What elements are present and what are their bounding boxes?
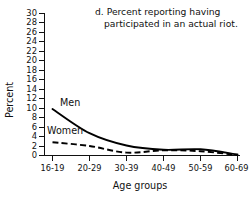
y-tick-label: 26 <box>26 27 37 37</box>
y-tick-label: 16 <box>26 74 37 84</box>
y-tick-label: 14 <box>26 84 37 94</box>
y-axis-label: Percent <box>4 82 15 118</box>
chart-title-line-1: d. Percent reporting having <box>95 6 220 17</box>
x-axis-tick-labels: 16-19 20-29 30-39 40-49 50-59 60-69 <box>41 163 249 173</box>
x-axis-ticks <box>53 156 238 162</box>
x-tick-label: 16-19 <box>41 163 65 173</box>
y-tick-label: 22 <box>26 46 37 56</box>
line-chart: d. Percent reporting having participated… <box>0 0 249 197</box>
series-label-men: Men <box>60 97 80 108</box>
y-tick-label: 6 <box>32 122 37 132</box>
series-label-women: Women <box>47 125 83 136</box>
y-tick-label: 2 <box>32 141 37 151</box>
chart-figure: d. Percent reporting having participated… <box>0 0 249 197</box>
chart-title-line-2: participated in an actual riot. <box>104 18 238 29</box>
y-tick-label: 10 <box>26 103 37 113</box>
x-tick-label: 40-49 <box>152 163 176 173</box>
y-axis-ticks <box>39 13 45 156</box>
y-tick-label: 0 <box>32 150 37 160</box>
y-tick-label: 18 <box>26 65 37 75</box>
y-tick-label: 4 <box>32 131 37 141</box>
x-axis-label: Age groups <box>113 180 167 191</box>
y-tick-label: 28 <box>26 17 37 27</box>
x-tick-label: 20-29 <box>78 163 102 173</box>
y-tick-label: 12 <box>26 93 37 103</box>
y-tick-label: 20 <box>26 55 37 65</box>
y-tick-label: 30 <box>26 8 37 18</box>
y-axis-tick-labels: 0 2 4 6 8 10 12 14 16 18 20 22 24 26 28 … <box>26 8 37 161</box>
y-tick-label: 8 <box>32 112 37 122</box>
x-tick-label: 60-69 <box>225 163 249 173</box>
y-tick-label: 24 <box>26 36 37 46</box>
x-tick-label: 50-59 <box>189 163 213 173</box>
x-tick-label: 30-39 <box>115 163 139 173</box>
